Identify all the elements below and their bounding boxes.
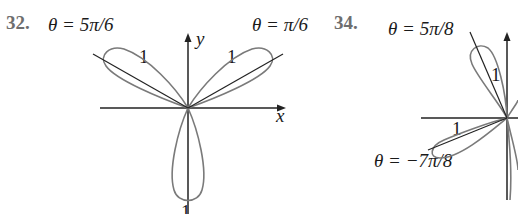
four-leaf-rose-plot xyxy=(0,0,518,214)
petal-5pi-8 xyxy=(470,46,507,118)
y-axis-arrow-icon xyxy=(504,32,511,41)
ray-5pi-8 xyxy=(470,32,507,118)
ray-neg-7pi-8 xyxy=(428,118,507,150)
petal-right-upper-partial xyxy=(507,100,518,118)
petal-neg-7pi-8 xyxy=(432,118,507,158)
